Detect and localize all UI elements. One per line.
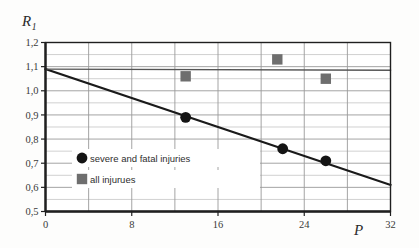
y-axis-tick-label: 0,7 (25, 158, 38, 169)
data-point-circle (320, 155, 331, 166)
chart-figure: 0,50,60,70,80,91,01,11,208162432R1Psever… (0, 0, 419, 248)
data-point-circle (277, 143, 288, 154)
data-point-square (180, 71, 190, 81)
x-axis-tick-label: 8 (129, 219, 134, 230)
y-axis-tick-label: 0,5 (25, 206, 38, 217)
y-axis-tick-label: 0,6 (25, 182, 38, 193)
y-axis-tick-label: 1,2 (25, 37, 38, 48)
x-axis-tick-label: 16 (213, 219, 224, 230)
data-point-square (321, 74, 331, 84)
x-axis-tick-label: 24 (299, 219, 310, 230)
y-axis-tick-label: 1,0 (25, 85, 38, 96)
y-axis-title: R1 (21, 13, 36, 32)
x-axis-title: P (353, 222, 363, 238)
y-axis-title-subscript: 1 (32, 22, 37, 32)
legend-marker-circle (77, 153, 88, 164)
data-point-square (272, 54, 282, 64)
y-axis-tick-label: 0,9 (25, 110, 38, 121)
legend-item-label: all injurues (90, 174, 136, 185)
legend-item-label: severe and fatal injuries (90, 153, 191, 164)
y-axis-tick-label: 1,1 (25, 61, 38, 72)
legend-marker-square (77, 174, 87, 184)
scatter-chart: 0,50,60,70,80,91,01,11,208162432R1Psever… (0, 0, 419, 248)
x-axis-tick-label: 0 (43, 219, 48, 230)
y-axis-tick-label: 0,8 (25, 134, 38, 145)
x-axis-tick-label: 32 (385, 219, 396, 230)
data-point-circle (180, 112, 191, 123)
